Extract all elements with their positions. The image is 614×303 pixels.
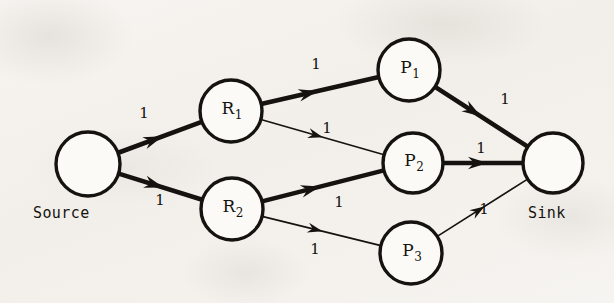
network-flow-figure: 111111111SourceR1R2P1P2P3Sink [0,0,614,303]
edge-capacity-label-source-r1: 1 [139,104,149,122]
graph-canvas [0,0,614,303]
terminal-label-source: Source [33,204,90,222]
edge-capacity-label-p3-sink: 1 [479,200,489,218]
edge-r1-p1 [262,77,378,104]
edge-capacity-label-r2-p2: 1 [334,193,344,211]
edge-capacity-label-p1-sink: 1 [500,90,510,108]
node-source [56,132,120,196]
node-label-p1: P1 [400,57,420,81]
node-label-r2: R2 [223,196,244,220]
edge-line-p1-sink [436,87,527,146]
edge-r2-p3 [263,217,380,246]
edge-capacity-label-r1-p1: 1 [311,55,321,73]
edge-p2-sink [444,157,522,169]
edge-capacity-label-r2-p3: 1 [310,240,320,258]
node-label-p3: P3 [402,240,422,264]
node-label-p2: P2 [404,150,424,174]
edge-r2-p2 [263,171,383,201]
edge-p1-sink [436,87,527,146]
edge-source-r1 [119,122,201,152]
terminal-label-sink: Sink [528,204,566,222]
node-sink [523,133,583,193]
edge-line-r1-p1 [262,77,378,104]
node-label-r1: R1 [222,98,243,122]
edge-line-r2-p2 [263,171,383,201]
edge-capacity-label-source-r2: 1 [155,191,165,209]
edge-capacity-label-r1-p2: 1 [322,119,332,137]
edge-capacity-label-p2-sink: 1 [476,139,486,157]
